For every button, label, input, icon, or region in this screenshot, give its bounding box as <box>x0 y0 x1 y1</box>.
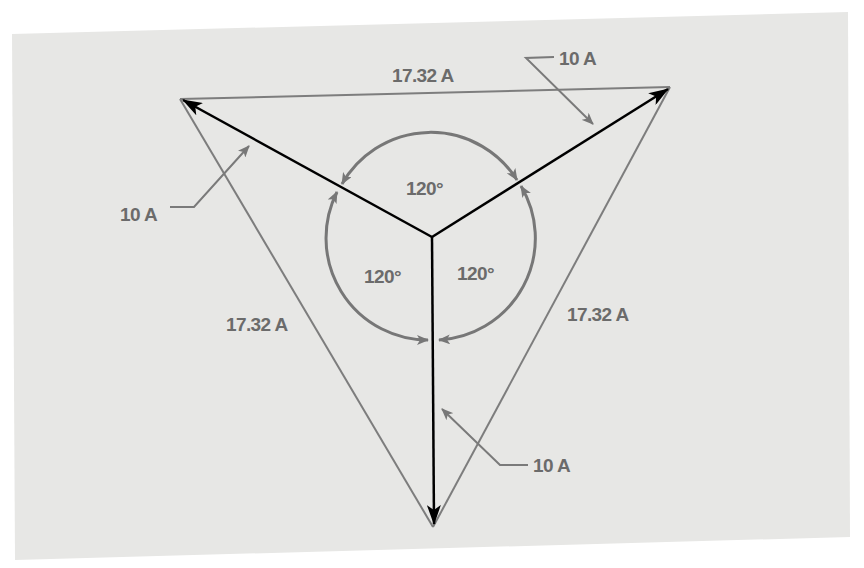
side-right-label: 17.32 A <box>567 304 630 325</box>
angle-top-label: 120° <box>406 178 443 199</box>
paper-panel <box>12 12 850 560</box>
side-left-label: 17.32 A <box>226 314 289 335</box>
callout-left-label: 10 A <box>120 204 158 225</box>
side-top-label: 17.32 A <box>392 65 455 86</box>
angle-right-label: 120° <box>457 263 494 284</box>
diagram-stage: 17.32 A 17.32 A 17.32 A 120° 120° 120° 1… <box>0 0 864 568</box>
callout-bottom-label: 10 A <box>533 455 571 476</box>
callout-top-right-label: 10 A <box>559 48 597 69</box>
phasor-diagram: 17.32 A 17.32 A 17.32 A 120° 120° 120° 1… <box>0 0 864 568</box>
angle-left-label: 120° <box>364 266 401 287</box>
